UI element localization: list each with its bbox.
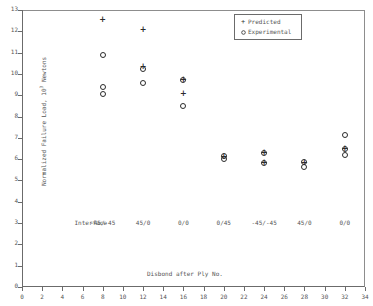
- interface-label: -45/-45: [90, 219, 115, 227]
- y-tick-label: 10: [11, 69, 18, 77]
- y-tick-label: 0: [14, 282, 18, 290]
- data-point-experimental: [139, 79, 147, 87]
- data-point-experimental: [341, 151, 349, 159]
- data-point-experimental: [341, 131, 349, 139]
- x-tick-mark: [345, 287, 346, 291]
- y-tick-mark: [18, 180, 23, 181]
- x-tick-mark: [325, 287, 326, 291]
- y-tick-label: 11: [11, 48, 18, 56]
- interface-label: 45/0: [297, 219, 311, 227]
- x-tick-label: 8: [101, 293, 105, 301]
- x-tick-label: 16: [180, 293, 187, 301]
- x-tick-label: 4: [61, 293, 65, 301]
- y-tick-label: 9: [14, 90, 18, 98]
- y-axis-title-base: Normalized Failure Load, 10: [40, 88, 47, 186]
- interface-label: 0/0: [339, 219, 350, 227]
- x-tick-mark: [264, 287, 265, 291]
- y-tick-label: 8: [14, 112, 18, 120]
- x-tick-label: 34: [361, 293, 368, 301]
- x-tick-mark: [103, 287, 104, 291]
- x-tick-mark: [304, 287, 305, 291]
- x-tick-mark: [365, 287, 366, 291]
- y-tick-mark: [18, 159, 23, 160]
- y-axis-title-exponent: 3: [39, 86, 44, 89]
- y-tick-mark: [18, 95, 23, 96]
- x-tick-label: 30: [321, 293, 328, 301]
- y-tick-mark: [18, 138, 23, 139]
- data-point-experimental: [300, 163, 308, 171]
- data-point-experimental: [220, 155, 228, 163]
- y-tick-mark: [18, 53, 23, 54]
- x-tick-mark: [83, 287, 84, 291]
- x-tick-mark: [244, 287, 245, 291]
- data-point-experimental: [139, 65, 147, 73]
- y-tick-label: 4: [14, 197, 18, 205]
- y-tick-mark: [18, 10, 23, 11]
- x-tick-label: 18: [200, 293, 207, 301]
- legend-label-predicted: Predicted: [248, 17, 281, 27]
- plus-marker-icon: +: [238, 17, 248, 27]
- data-point-experimental: [179, 102, 187, 110]
- x-tick-mark: [123, 287, 124, 291]
- y-axis-title-unit: Newtons: [40, 57, 47, 86]
- y-tick-mark: [18, 244, 23, 245]
- y-tick-label: 13: [11, 5, 18, 13]
- interface-label: 0/45: [217, 219, 231, 227]
- interface-label: -45/-45: [251, 219, 276, 227]
- x-tick-mark: [62, 287, 63, 291]
- x-tick-mark: [204, 287, 205, 291]
- y-tick-label: 6: [14, 154, 18, 162]
- data-point-predicted: [179, 90, 187, 98]
- x-tick-label: 10: [119, 293, 126, 301]
- y-tick-label: 2: [14, 239, 18, 247]
- x-tick-label: 32: [341, 293, 348, 301]
- x-tick-label: 12: [139, 293, 146, 301]
- x-tick-mark: [42, 287, 43, 291]
- y-tick-label: 7: [14, 133, 18, 141]
- x-tick-label: 24: [260, 293, 267, 301]
- interface-label: 0/0: [178, 219, 189, 227]
- x-tick-label: 2: [40, 293, 44, 301]
- x-tick-mark: [224, 287, 225, 291]
- data-point-predicted: [99, 16, 107, 24]
- y-tick-mark: [18, 223, 23, 224]
- scatter-chart-figure: 012345678910111213 024681012141618202224…: [0, 0, 373, 306]
- interface-label: 45/0: [136, 219, 150, 227]
- legend-entry-experimental: Experimental: [238, 27, 298, 37]
- y-tick-mark: [18, 266, 23, 267]
- y-tick-label: 1: [14, 261, 18, 269]
- x-tick-label: 0: [20, 293, 24, 301]
- legend-entry-predicted: + Predicted: [238, 17, 298, 27]
- x-tick-mark: [183, 287, 184, 291]
- y-tick-mark: [18, 74, 23, 75]
- circle-marker-icon: [238, 27, 248, 37]
- data-point-predicted: [139, 26, 147, 34]
- x-tick-mark: [22, 287, 23, 291]
- y-tick-label: 5: [14, 175, 18, 183]
- data-point-experimental: [260, 159, 268, 167]
- y-tick-mark: [18, 31, 23, 32]
- x-tick-mark: [284, 287, 285, 291]
- data-point-experimental: [99, 90, 107, 98]
- legend-label-experimental: Experimental: [248, 27, 291, 37]
- x-tick-label: 14: [160, 293, 167, 301]
- y-tick-mark: [18, 202, 23, 203]
- x-tick-label: 28: [301, 293, 308, 301]
- plot-area: 012345678910111213 024681012141618202224…: [22, 10, 365, 287]
- y-axis-title: Normalized Failure Load, 103 Newtons: [38, 57, 48, 186]
- data-point-experimental: [179, 76, 187, 84]
- y-tick-label: 3: [14, 218, 18, 226]
- x-tick-label: 6: [81, 293, 85, 301]
- x-axis-title: Disbond after Ply No.: [147, 270, 223, 278]
- y-tick-mark: [18, 117, 23, 118]
- x-tick-mark: [143, 287, 144, 291]
- x-tick-label: 20: [220, 293, 227, 301]
- x-tick-label: 26: [281, 293, 288, 301]
- x-tick-label: 22: [240, 293, 247, 301]
- x-tick-mark: [163, 287, 164, 291]
- legend-box: + Predicted Experimental: [234, 14, 302, 40]
- data-point-experimental: [99, 51, 107, 59]
- y-tick-label: 12: [11, 26, 18, 34]
- data-point-experimental: [260, 149, 268, 157]
